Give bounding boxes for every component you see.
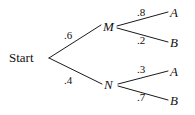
probability-n-to-b: .7 — [137, 92, 145, 103]
probability-start-to-n: .4 — [64, 75, 72, 86]
node-n: N — [104, 78, 113, 91]
node-m: M — [103, 20, 114, 33]
probability-m-to-b: .2 — [137, 35, 145, 46]
edge-start-to-n — [49, 58, 102, 84]
edge-start-to-m — [49, 25, 101, 58]
probability-tree-diagram: Start M N .6 .4 A B A B .8 .2 .3 .7 — [0, 0, 195, 115]
probability-m-to-a: .8 — [137, 7, 145, 18]
leaf-n-a: A — [170, 65, 178, 78]
node-start: Start — [9, 51, 34, 64]
leaf-n-b: B — [170, 94, 178, 107]
probability-n-to-a: .3 — [137, 64, 145, 75]
leaf-m-a: A — [170, 6, 178, 19]
probability-start-to-m: .6 — [64, 30, 72, 41]
leaf-m-b: B — [170, 36, 178, 49]
